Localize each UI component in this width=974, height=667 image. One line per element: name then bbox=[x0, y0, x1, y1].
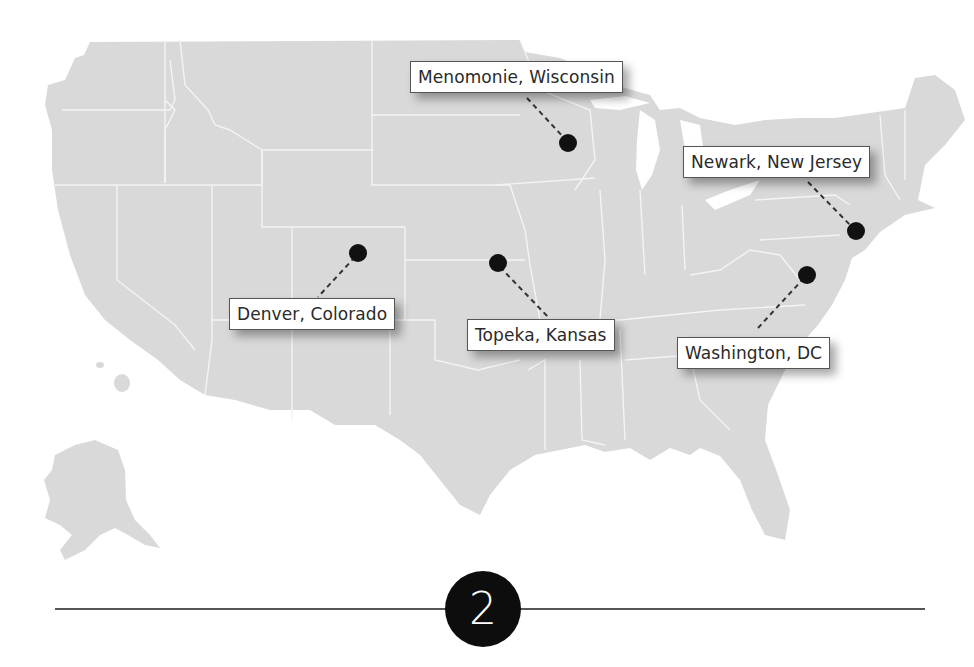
divider-line-right bbox=[519, 608, 925, 610]
pin-newark[interactable] bbox=[847, 222, 865, 240]
label-newark-new-jersey: Newark, New Jersey bbox=[683, 146, 870, 178]
pin-washington[interactable] bbox=[798, 266, 816, 284]
label-washington-dc: Washington, DC bbox=[677, 337, 830, 369]
divider-line-left bbox=[55, 608, 447, 610]
pin-denver[interactable] bbox=[349, 244, 367, 262]
hawaii-island bbox=[96, 362, 104, 368]
step-number-badge: 2 bbox=[445, 571, 521, 647]
label-menomonie-wisconsin: Menomonie, Wisconsin bbox=[410, 61, 623, 93]
pin-topeka[interactable] bbox=[489, 254, 507, 272]
label-denver-colorado: Denver, Colorado bbox=[229, 298, 395, 330]
alaska-landmass bbox=[44, 440, 160, 560]
label-topeka-kansas: Topeka, Kansas bbox=[467, 319, 615, 351]
pin-menomonie[interactable] bbox=[559, 134, 577, 152]
hawaii-island bbox=[114, 374, 130, 392]
